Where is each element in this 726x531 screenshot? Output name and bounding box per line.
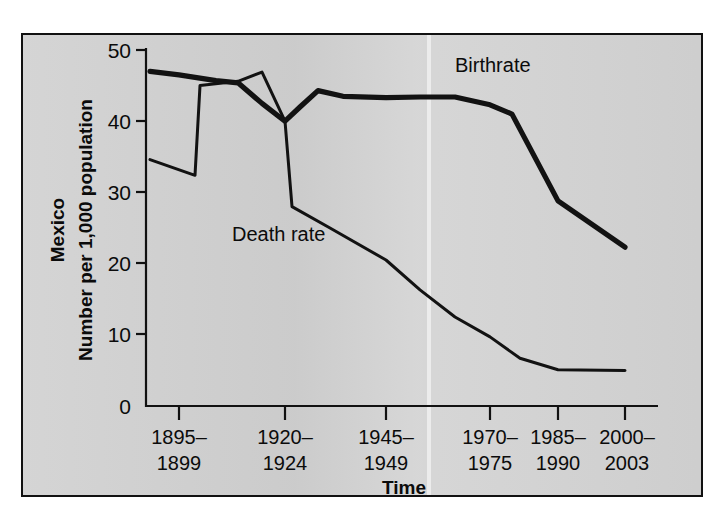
x-tick-label-2-line1: 1945– — [358, 426, 414, 448]
x-tick-label-3-line1: 1970– — [462, 426, 518, 448]
y-tick-label-10: 10 — [108, 323, 131, 346]
x-tick-label-2-line2: 1949 — [364, 452, 409, 474]
series-line-birthrate — [150, 71, 625, 247]
x-tick-label-5-line2: 2003 — [605, 452, 650, 474]
x-tick-label-4-line1: 1985– — [530, 426, 586, 448]
series-annotation-death-rate: Death rate — [232, 223, 325, 245]
y-axis-title: Number per 1,000 population — [75, 99, 96, 361]
series-annotation-birthrate: Birthrate — [455, 54, 531, 76]
y-tick-label-30: 30 — [108, 181, 131, 204]
y-tick-label-40: 40 — [108, 110, 131, 133]
x-tickmarks — [179, 406, 625, 420]
y-tick-label-50: 50 — [108, 39, 131, 62]
series-line-death-rate — [150, 72, 625, 370]
y-tick-labels: 50 40 30 20 10 0 — [108, 39, 131, 418]
x-axis-title: Time — [382, 477, 426, 498]
y-axis-region-label: Mexico — [47, 198, 68, 262]
x-tick-label-5-line1: 2000– — [599, 426, 655, 448]
y-tick-label-0: 0 — [119, 395, 131, 418]
x-tick-labels: 1895– 1899 1920– 1924 1945– 1949 1970– 1… — [151, 426, 655, 474]
x-tick-label-0-line1: 1895– — [151, 426, 207, 448]
x-tick-label-3-line2: 1975 — [468, 452, 513, 474]
x-tick-label-0-line2: 1899 — [157, 452, 202, 474]
y-tick-label-20: 20 — [108, 252, 131, 275]
chart-plot-area: 50 40 30 20 10 0 1895– 1899 1920– 1924 1… — [0, 0, 726, 531]
chart-figure: 50 40 30 20 10 0 1895– 1899 1920– 1924 1… — [0, 0, 726, 531]
x-tick-label-1-line1: 1920– — [257, 426, 313, 448]
x-tick-label-4-line2: 1990 — [536, 452, 581, 474]
y-tickmarks — [136, 50, 146, 334]
x-tick-label-1-line2: 1924 — [263, 452, 308, 474]
chart-axes — [146, 48, 658, 406]
